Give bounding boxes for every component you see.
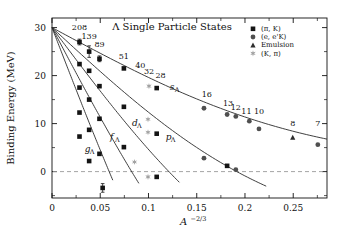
marker-square — [97, 117, 102, 122]
curve-dΛ — [52, 28, 179, 183]
x-tick-label: 0.15 — [187, 203, 207, 213]
marker-star — [145, 174, 150, 180]
marker-square — [87, 49, 92, 54]
marker-square — [77, 134, 82, 139]
curve-label-sΛ: sΛ — [170, 82, 180, 94]
legend-item-3: (K, π) — [250, 50, 281, 58]
curve-label-pΛ: pΛ — [166, 132, 176, 144]
svg-text:A: A — [179, 216, 187, 227]
marker-square — [77, 85, 82, 90]
marker-square — [97, 152, 102, 157]
marker-square — [251, 27, 256, 32]
marker-square — [77, 62, 82, 67]
legend-label: Emulsion — [261, 41, 295, 49]
marker-circle — [225, 112, 230, 117]
marker-square — [154, 131, 159, 136]
x-axis-label: A−2/3 — [179, 215, 207, 227]
svg-text:−2/3: −2/3 — [191, 215, 207, 223]
y-axis-label: Binding Energy (MeV) — [5, 51, 16, 165]
curve-label-fΛ: fΛ — [109, 132, 120, 144]
marker-square — [87, 97, 92, 102]
marker-star — [250, 50, 255, 56]
legend-label: (π, K) — [261, 25, 281, 33]
series-sΛ — [77, 39, 320, 147]
marker-square — [154, 86, 159, 91]
y-tick-label: 20 — [35, 71, 47, 81]
lambda-single-particle-states-chart: 00.050.10.150.20.250102030Binding Energy… — [0, 0, 339, 236]
legend-item-0: (π, K) — [251, 25, 281, 33]
marker-circle — [233, 114, 238, 119]
point-label: 12 — [231, 103, 241, 112]
legend-label: (K, π) — [261, 50, 281, 58]
chart-title: Λ Single Particle States — [111, 21, 232, 32]
chart-figure: 00.050.10.150.20.250102030Binding Energy… — [0, 0, 339, 236]
marker-star — [145, 116, 150, 122]
marker-circle — [251, 35, 256, 40]
point-label: 8 — [290, 119, 295, 128]
y-tick-label: 30 — [35, 23, 47, 33]
marker-star — [132, 159, 137, 165]
point-label: 51 — [119, 52, 129, 61]
point-label: 32 — [144, 67, 154, 76]
marker-square — [154, 175, 159, 180]
legend-item-2: Emulsion — [250, 41, 294, 49]
marker-triangle — [290, 135, 295, 140]
point-label: 89 — [94, 40, 104, 49]
point-label: 7 — [315, 119, 320, 128]
marker-square — [100, 186, 105, 191]
x-tick-label: 0.25 — [283, 203, 303, 213]
point-label: 11 — [241, 107, 251, 116]
marker-square — [122, 145, 127, 150]
marker-circle — [257, 126, 262, 131]
marker-square — [97, 57, 102, 62]
marker-circle — [202, 106, 207, 111]
marker-square — [122, 105, 127, 110]
x-tick-label: 0.1 — [141, 203, 155, 213]
y-tick-label: 0 — [40, 167, 46, 177]
marker-circle — [233, 167, 238, 172]
marker-square — [77, 110, 82, 115]
marker-star — [145, 129, 150, 135]
curve-label-dΛ: dΛ — [132, 118, 142, 130]
marker-star — [146, 83, 151, 89]
marker-square — [122, 66, 127, 71]
svg-text:Λ: Λ — [170, 136, 176, 144]
marker-square — [97, 84, 102, 89]
marker-square — [87, 128, 92, 133]
x-tick-label: 0.2 — [238, 203, 252, 213]
legend-label: (e, e'K) — [261, 33, 287, 41]
curve-gΛ — [52, 28, 113, 181]
point-label: 10 — [254, 107, 264, 116]
svg-text:Λ: Λ — [89, 148, 95, 156]
marker-square — [87, 69, 92, 74]
point-label: 208 — [72, 23, 87, 32]
x-tick-label: 0.05 — [90, 203, 110, 213]
legend-item-1: (e, e'K) — [251, 33, 287, 41]
svg-text:Λ: Λ — [136, 122, 142, 130]
svg-text:Λ: Λ — [174, 86, 180, 94]
svg-text:Λ: Λ — [114, 136, 120, 144]
marker-circle — [315, 142, 320, 147]
marker-circle — [202, 156, 207, 161]
legend: (π, K)(e, e'K)Emulsion(K, π) — [250, 25, 294, 58]
marker-triangle — [250, 42, 255, 47]
point-label: 16 — [202, 90, 212, 99]
marker-circle — [247, 119, 252, 124]
point-label: 28 — [155, 71, 165, 80]
y-tick-label: 10 — [35, 119, 47, 129]
curve-label-gΛ: gΛ — [85, 144, 95, 156]
fit-curves — [52, 28, 327, 187]
x-tick-label: 0 — [49, 203, 55, 213]
marker-square — [87, 159, 92, 164]
marker-square — [225, 164, 230, 169]
